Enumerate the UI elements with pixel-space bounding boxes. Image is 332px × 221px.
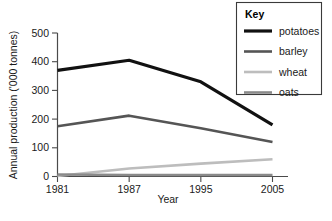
x-tick-label: 2005 [261, 183, 285, 195]
chart-canvas: 0100200300400500 Annual production ('000… [0, 0, 332, 221]
y-tick-label: 400 [31, 55, 49, 67]
x-axis-group: 1981198719952005 Year [46, 177, 288, 206]
x-tick-label: 1987 [117, 183, 141, 195]
y-tick-label: 200 [31, 113, 49, 125]
legend-title: Key [245, 8, 264, 20]
y-tick-label: 100 [31, 141, 49, 153]
y-axis-title: Annual production ('000 tonnes) [7, 31, 19, 180]
y-tick-label: 0 [43, 170, 49, 182]
series-line-oats [58, 174, 273, 175]
line-chart: 0100200300400500 Annual production ('000… [0, 0, 332, 221]
y-tick-label: 500 [31, 27, 49, 39]
y-tick-group: 0100200300400500 [31, 27, 57, 183]
legend-label-barley: barley [279, 45, 308, 57]
y-tick-label: 300 [31, 84, 49, 96]
x-axis-title: Year [157, 193, 179, 205]
x-tick-label: 1981 [46, 183, 70, 195]
legend-label-oats: oats [279, 86, 299, 98]
legend-label-potatoes: potatoes [279, 25, 319, 37]
legend-label-wheat: wheat [278, 66, 307, 78]
series-line-wheat [58, 159, 273, 176]
y-axis-group: 0100200300400500 Annual production ('000… [7, 27, 58, 183]
series-line-barley [58, 116, 273, 142]
chart-legend: Key potatoesbarleywheatoats [237, 3, 322, 99]
x-tick-label: 1995 [189, 183, 213, 195]
